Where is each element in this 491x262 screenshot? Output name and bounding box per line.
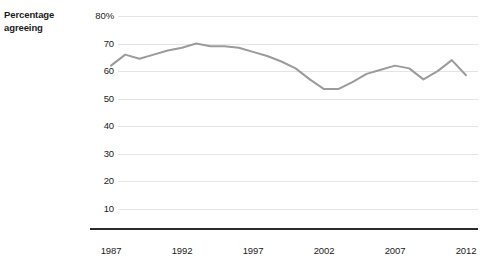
plot-area: 80%70605040302010 1987199219972002200720… xyxy=(0,0,491,262)
series-plot xyxy=(0,0,491,262)
series-line-percentage-agreeing xyxy=(111,44,466,89)
line-chart: Percentage agreeing 80%70605040302010 19… xyxy=(0,0,491,262)
